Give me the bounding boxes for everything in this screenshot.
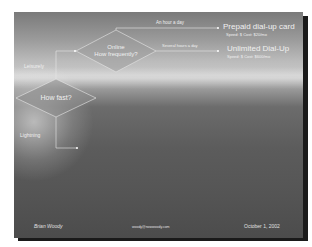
footer-author: Brian Woody <box>34 223 63 229</box>
branch-lightning: Lightning <box>20 132 40 138</box>
dest-prepaid-title: Prepaid dial-up card <box>223 22 295 31</box>
online-label: Online How frequently? <box>86 44 146 58</box>
slide: How fast? Online How frequently? Leisure… <box>14 12 303 238</box>
online-label-line2: How frequently? <box>86 51 146 58</box>
edge-several-hours: Several hours a day <box>162 43 198 48</box>
online-label-line1: Online <box>86 44 146 51</box>
how-fast-label: How fast? <box>30 94 82 101</box>
dest-prepaid-detail: Speed: $ Cost: $20/mo <box>226 32 267 37</box>
footer-date: October 1, 2002 <box>244 223 280 229</box>
branch-leisurely: Leisurely <box>24 63 44 69</box>
footer-email: woody@nowwoody.com <box>132 225 170 229</box>
dest-unlimited-title: Unlimited Dial-Up <box>227 44 289 53</box>
edge-hour-a-day: An hour a day <box>156 20 184 25</box>
dest-unlimited-detail: Speed: $ Cost: $600/mo <box>227 54 270 59</box>
